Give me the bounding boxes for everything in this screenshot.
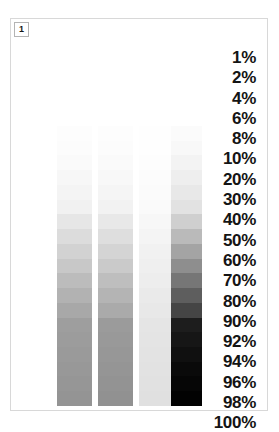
tint-swatch <box>98 259 133 274</box>
percentage-label: 1% <box>170 48 256 68</box>
tint-swatch <box>98 214 133 229</box>
tint-swatch <box>98 332 133 347</box>
page-number-marker: 1 <box>14 22 29 37</box>
percentage-label: 92% <box>170 332 256 352</box>
percentage-label: 100% <box>170 413 256 432</box>
tint-swatch <box>98 318 133 333</box>
tint-swatch <box>98 288 133 303</box>
tint-swatch <box>57 200 92 215</box>
tint-swatch <box>139 229 171 244</box>
tint-swatch <box>139 362 171 377</box>
percentage-label: 6% <box>170 109 256 129</box>
tint-swatch <box>57 318 92 333</box>
tint-swatch <box>139 318 171 333</box>
tint-swatch <box>139 141 171 156</box>
tint-swatch <box>98 273 133 288</box>
tint-swatch <box>57 170 92 185</box>
percentage-label: 90% <box>170 312 256 332</box>
tint-swatch <box>139 332 171 347</box>
tint-swatch <box>98 185 133 200</box>
tint-swatch <box>139 200 171 215</box>
tint-swatch <box>57 244 92 259</box>
percentage-label: 80% <box>170 292 256 312</box>
tint-ramp-column <box>57 126 92 406</box>
page-sheet: 1 1%2%4%6%8%10%20%30%40%50%60%70%80%90%9… <box>10 18 268 411</box>
tint-swatch <box>139 288 171 303</box>
tint-swatch <box>98 141 133 156</box>
tint-swatch <box>57 214 92 229</box>
percentage-label: 8% <box>170 129 256 149</box>
percentage-label: 50% <box>170 231 256 251</box>
tint-swatch <box>57 273 92 288</box>
tint-swatch <box>139 170 171 185</box>
tint-ramp-column <box>139 126 171 406</box>
percentage-label: 20% <box>170 170 256 190</box>
tint-swatch <box>57 303 92 318</box>
tint-swatch <box>139 214 171 229</box>
percentage-label: 60% <box>170 251 256 271</box>
tint-swatch <box>57 376 92 391</box>
percentage-label: 70% <box>170 271 256 291</box>
percentage-label: 4% <box>170 89 256 109</box>
percentage-label: 94% <box>170 352 256 372</box>
tint-swatch <box>57 347 92 362</box>
percentage-label: 30% <box>170 190 256 210</box>
tint-swatch <box>98 155 133 170</box>
tint-swatch <box>98 229 133 244</box>
percentage-label-column: 1%2%4%6%8%10%20%30%40%50%60%70%80%90%92%… <box>170 48 256 432</box>
percentage-label: 10% <box>170 149 256 169</box>
tint-swatch <box>139 259 171 274</box>
tint-swatch <box>139 185 171 200</box>
tint-ramp-column <box>98 126 133 406</box>
tint-swatch <box>57 155 92 170</box>
tint-swatch <box>98 170 133 185</box>
page-number-label: 1 <box>19 25 24 34</box>
percentage-label: 96% <box>170 373 256 393</box>
tint-swatch <box>139 273 171 288</box>
tint-swatch <box>57 332 92 347</box>
percentage-label: 2% <box>170 68 256 88</box>
tint-swatch <box>139 303 171 318</box>
tint-swatch <box>57 126 92 141</box>
tint-swatch <box>139 347 171 362</box>
tint-swatch <box>98 200 133 215</box>
tint-swatch <box>98 376 133 391</box>
tint-swatch <box>57 185 92 200</box>
tint-swatch <box>57 391 92 406</box>
tint-swatch <box>98 244 133 259</box>
tint-swatch <box>139 376 171 391</box>
tint-swatch <box>57 141 92 156</box>
tint-swatch <box>139 244 171 259</box>
tint-swatch <box>57 362 92 377</box>
tint-swatch <box>98 303 133 318</box>
tint-swatch <box>139 126 171 141</box>
percentage-label: 40% <box>170 210 256 230</box>
tint-swatch <box>139 391 171 406</box>
tint-swatch <box>57 288 92 303</box>
tint-swatch <box>98 362 133 377</box>
tint-swatch <box>139 155 171 170</box>
tint-swatch <box>98 126 133 141</box>
percentage-label: 98% <box>170 393 256 413</box>
tint-swatch <box>98 347 133 362</box>
tint-swatch <box>98 391 133 406</box>
tint-swatch <box>57 259 92 274</box>
tint-swatch <box>57 229 92 244</box>
